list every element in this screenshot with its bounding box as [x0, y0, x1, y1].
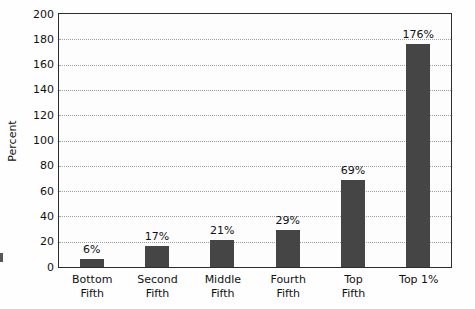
bar-value-label-bottom-fifth: 6%	[62, 243, 122, 256]
gridline-120	[59, 115, 451, 116]
gridline-160	[59, 65, 451, 66]
gridline-80	[59, 166, 451, 167]
plot-area: 6%17%21%29%69%176%	[58, 13, 452, 268]
y-tick-label-60: 60	[14, 185, 54, 199]
y-tick-label-120: 120	[14, 109, 54, 123]
y-tick-label-80: 80	[14, 159, 54, 173]
y-tick-label-180: 180	[14, 33, 54, 47]
bar-bottom-fifth	[80, 259, 104, 267]
y-tick-label-140: 140	[14, 83, 54, 97]
bar-top-fifth	[341, 180, 365, 267]
bar-second-fifth	[145, 246, 169, 268]
gridline-140	[59, 90, 451, 91]
y-tick-label-0: 0	[14, 261, 54, 275]
y-tick-label-200: 200	[14, 8, 54, 22]
bar-value-label-fourth-fifth: 29%	[258, 214, 318, 227]
gridline-60	[59, 191, 451, 192]
y-tick-label-100: 100	[14, 134, 54, 148]
bar-value-label-middle-fifth: 21%	[192, 224, 252, 237]
x-category-label-top-1: Top 1%	[377, 273, 461, 287]
bar-middle-fifth	[210, 240, 234, 267]
y-tick-label-40: 40	[14, 210, 54, 224]
bar-chart-figure: Percent 020406080100120140160180200 6%17…	[0, 0, 475, 309]
gridline-40	[59, 216, 451, 217]
bar-value-label-top-1: 176%	[388, 28, 448, 41]
bar-value-label-top-fifth: 69%	[323, 164, 383, 177]
scan-edge-artifact	[0, 253, 3, 262]
gridline-100	[59, 141, 451, 142]
bar-fourth-fifth	[276, 230, 300, 267]
bar-top-1	[406, 44, 430, 267]
bar-value-label-second-fifth: 17%	[127, 230, 187, 243]
y-tick-label-160: 160	[14, 58, 54, 72]
y-tick-label-20: 20	[14, 235, 54, 249]
